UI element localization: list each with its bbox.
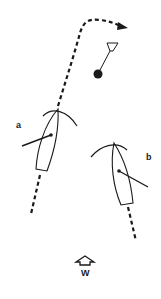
arrowhead-icon bbox=[117, 22, 128, 30]
boat-a-wake-line bbox=[31, 175, 40, 214]
boat-b-sail-arc bbox=[91, 145, 127, 157]
boat-b-wake-line bbox=[128, 207, 136, 241]
boat-a-label: a bbox=[16, 120, 21, 130]
wind-arrow-icon bbox=[76, 256, 94, 265]
diagram-canvas bbox=[0, 0, 161, 299]
boat-b-icon bbox=[91, 143, 148, 205]
boat-a-course-line bbox=[58, 20, 121, 106]
boat-b-label: b bbox=[146, 152, 152, 162]
mark-icon bbox=[94, 43, 119, 79]
wind-label: W bbox=[81, 268, 90, 278]
boat-a-icon bbox=[22, 109, 77, 171]
